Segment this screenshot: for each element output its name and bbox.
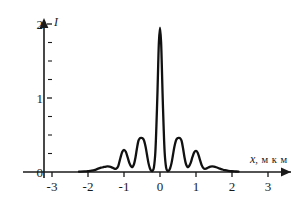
x-tick-label: -3 bbox=[47, 179, 58, 194]
x-tick-label: -1 bbox=[119, 179, 130, 194]
y-axis-tick-labels: 012 bbox=[37, 17, 44, 180]
diffraction-intensity-plot: -3-2-10123 012 I x, м к м bbox=[0, 0, 307, 207]
x-tick-label: 2 bbox=[229, 179, 236, 194]
x-axis-label: x, м к м bbox=[249, 152, 288, 166]
x-tick-label: -2 bbox=[83, 179, 94, 194]
y-tick-label: 0 bbox=[37, 165, 44, 180]
chart-canvas: -3-2-10123 012 I x, м к м bbox=[0, 0, 307, 207]
intensity-curve bbox=[79, 28, 238, 172]
x-axis-label-units: , м к м bbox=[255, 154, 287, 165]
x-tick-label: 1 bbox=[193, 179, 200, 194]
x-tick-label: 0 bbox=[157, 179, 164, 194]
y-tick-label: 1 bbox=[37, 91, 44, 106]
x-axis-tick-labels: -3-2-10123 bbox=[47, 179, 272, 194]
y-axis-label: I bbox=[53, 15, 59, 29]
x-axis-arrow-icon bbox=[281, 168, 291, 177]
x-tick-label: 3 bbox=[265, 179, 272, 194]
y-tick-label: 2 bbox=[37, 17, 44, 32]
x-axis bbox=[23, 168, 291, 177]
